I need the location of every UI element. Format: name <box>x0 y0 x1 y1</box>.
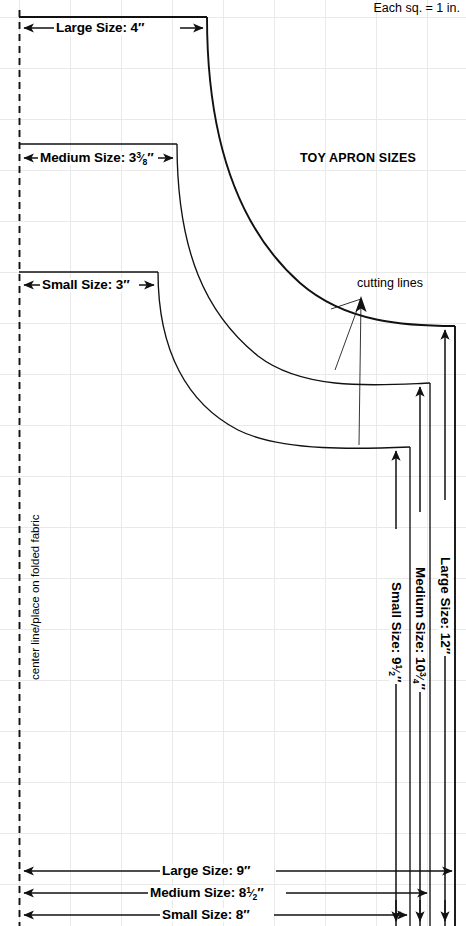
pattern-drawing <box>0 0 466 926</box>
center-line-note: center line/place on folded fabric <box>30 514 42 680</box>
dim-medium-neck-width: Medium Size: 33⁄8″ <box>38 151 156 165</box>
dim-large-hem-width: Large Size: 9″ <box>160 864 252 878</box>
small-pattern-outline <box>19 272 410 926</box>
dim-large-height: Large Size: 12″ <box>439 555 453 656</box>
dim-small-neck-width: Small Size: 3″ <box>40 278 132 292</box>
scale-note: Each sq. = 1 in. <box>373 2 460 15</box>
dim-medium-height: Medium Size: 103⁄4″ <box>414 565 428 692</box>
dim-small-hem-width: Small Size: 8″ <box>160 908 252 922</box>
medium-pattern-outline <box>19 144 430 926</box>
dim-large-neck-width: Large Size: 4″ <box>54 21 146 35</box>
vertical-dimension-bottom-arrows <box>396 900 445 921</box>
dim-small-height: Small Size: 91⁄2″ <box>390 580 404 684</box>
page-title: TOY APRON SIZES <box>300 152 416 165</box>
dim-medium-hem-width: Medium Size: 81⁄2″ <box>148 886 266 900</box>
cutting-lines-note: cutting lines <box>357 277 423 290</box>
cutting-lines-leader <box>331 299 361 445</box>
apron-pattern-diagram: Each sq. = 1 in. TOY APRON SIZES cutting… <box>0 0 466 926</box>
